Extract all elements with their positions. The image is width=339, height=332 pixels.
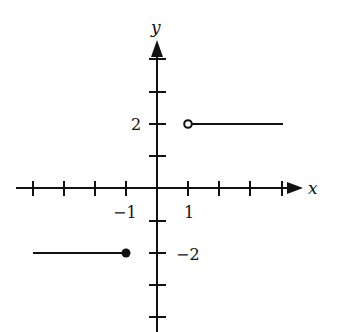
open-endpoint-icon: [184, 120, 192, 128]
x-tick-label-neg1: −1: [113, 203, 137, 222]
y-tick-label-neg2: −2: [176, 245, 200, 264]
x-axis: x −1 1: [16, 178, 318, 222]
y-axis: y 2 −2: [131, 17, 200, 332]
x-axis-label: x: [308, 178, 318, 198]
y-tick-label-pos2: 2: [131, 115, 141, 134]
series-left-piece: [33, 249, 131, 258]
y-axis-label: y: [150, 17, 161, 37]
x-axis-arrow-icon: [287, 182, 303, 194]
series-right-piece: [184, 120, 283, 128]
piecewise-function-plot: x −1 1 y 2 −2: [0, 0, 339, 332]
x-tick-label-pos1: 1: [184, 203, 194, 222]
y-axis-arrow-icon: [151, 40, 163, 57]
closed-endpoint-icon: [122, 249, 131, 258]
